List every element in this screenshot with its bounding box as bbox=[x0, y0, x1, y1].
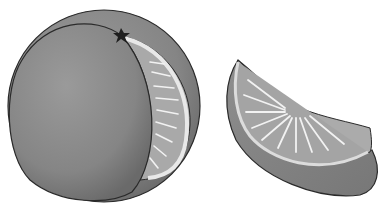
orange-wedge bbox=[227, 60, 378, 196]
orange-illustration bbox=[0, 0, 389, 213]
whole-orange bbox=[8, 10, 200, 202]
illustration-canvas bbox=[0, 0, 389, 213]
